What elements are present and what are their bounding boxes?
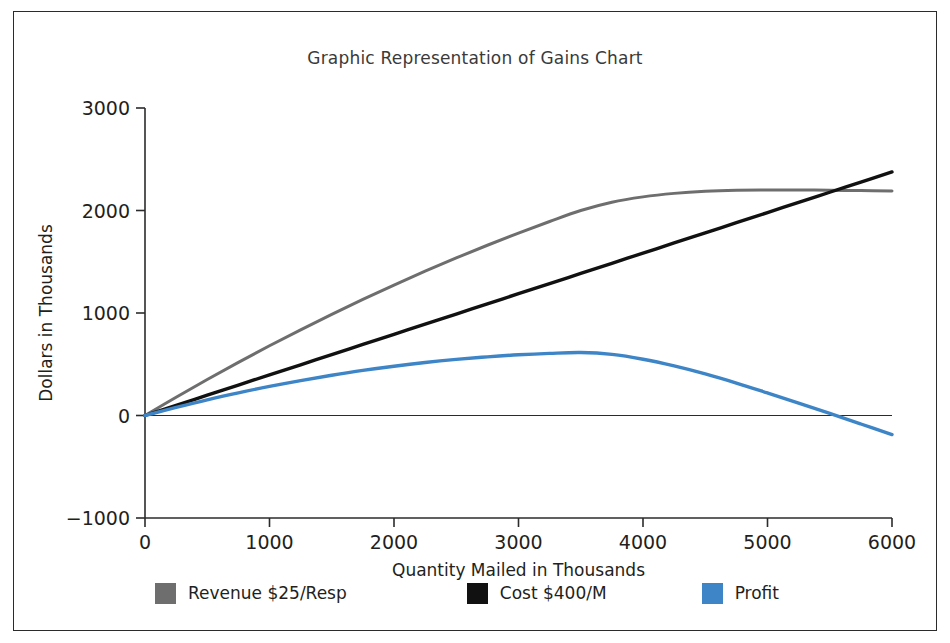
gains-chart-plot: −100001000200030000100020003000400050006… [0,0,950,643]
x-tick-label: 1000 [245,531,293,553]
legend-label-cost: Cost $400/M [500,583,607,603]
chart-legend: Revenue $25/Resp Cost $400/M Profit [145,578,905,608]
legend-item-cost[interactable]: Cost $400/M [467,583,607,604]
y-tick-label: 3000 [82,97,130,119]
series-line-revenue-25-resp [145,190,892,416]
y-axis-title: Dollars in Thousands [36,224,56,402]
series-line-profit [145,353,892,435]
y-tick-label: 2000 [82,200,130,222]
axis-labels-group: −100001000200030000100020003000400050006… [36,97,916,580]
series-line-cost-400-m [145,172,892,416]
x-tick-label: 0 [139,531,151,553]
legend-swatch-cost [467,583,488,604]
x-tick-label: 5000 [743,531,791,553]
legend-item-revenue[interactable]: Revenue $25/Resp [155,583,347,604]
chart-page: Graphic Representation of Gains Chart −1… [0,0,950,643]
legend-label-profit: Profit [735,583,779,603]
axes-group [136,108,892,527]
y-tick-label: 0 [118,405,130,427]
legend-item-profit[interactable]: Profit [702,583,779,604]
x-tick-label: 3000 [494,531,542,553]
legend-label-revenue: Revenue $25/Resp [188,583,347,603]
x-tick-label: 2000 [370,531,418,553]
y-tick-label: 1000 [82,302,130,324]
legend-swatch-revenue [155,583,176,604]
x-axis-title: Quantity Mailed in Thousands [392,560,645,580]
x-tick-label: 6000 [868,531,916,553]
x-tick-label: 4000 [619,531,667,553]
y-tick-label: −1000 [66,507,130,529]
legend-swatch-profit [702,583,723,604]
series-group [145,172,892,435]
